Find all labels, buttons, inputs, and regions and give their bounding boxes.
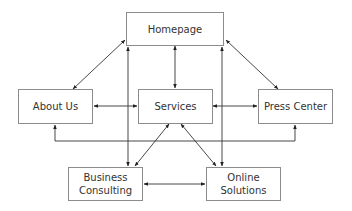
site-map-diagram: Homepage About Us Services Press Center …	[0, 0, 352, 211]
node-label-line1: Business	[83, 171, 127, 184]
edge-homepage-about	[73, 40, 125, 89]
edge-homepage-press	[226, 40, 278, 89]
node-online-solutions: Online Solutions	[206, 167, 281, 201]
edge-about-press	[55, 125, 295, 141]
edge-services-online	[181, 124, 216, 166]
node-label-line1: Online	[227, 171, 259, 184]
node-label-line2: Solutions	[221, 184, 267, 197]
node-label: Services	[154, 100, 196, 113]
node-press-center: Press Center	[258, 89, 333, 124]
node-services: Services	[138, 89, 213, 124]
node-homepage: Homepage	[126, 12, 224, 46]
edge-services-business	[135, 124, 169, 166]
node-label: Homepage	[148, 23, 203, 36]
node-label: Press Center	[264, 100, 327, 113]
node-label-line2: Consulting	[79, 184, 132, 197]
node-business-consulting: Business Consulting	[68, 167, 143, 201]
node-label: About Us	[33, 100, 78, 113]
node-about-us: About Us	[18, 89, 93, 124]
